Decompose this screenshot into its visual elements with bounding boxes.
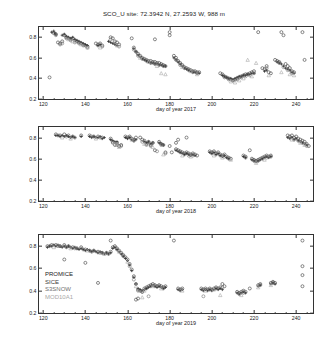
xtick-mark [127,198,128,201]
xtick-mark [296,27,297,30]
xtick-minor [306,200,307,201]
plot-area-2019: PROMICE SICE S3SNOW MOD10A1 0.20.40.60.8… [38,234,314,314]
xtick-mark [296,198,297,201]
xtick-minor [180,312,181,313]
ytick-mark [310,268,313,269]
legend: PROMICE SICE S3SNOW MOD10A1 [45,271,73,301]
xtick-minor [117,98,118,99]
ytick-label: 0.8 [29,34,36,40]
ytick-mark [310,78,313,79]
xtick-mark [85,310,86,313]
legend-item-s3snow: S3SNOW [45,286,73,294]
xtick-mark [169,198,170,201]
xtick-mark [296,127,297,130]
ytick-mark [39,58,42,59]
xtick-minor [159,312,160,313]
xtick-mark [254,310,255,313]
xtick-minor [96,200,97,201]
xtick-minor [275,98,276,99]
xtick-minor [75,200,76,201]
ytick-label: 0.4 [29,177,36,183]
plot-area-2017: 0.20.40.60.8120140160180200220240 [38,26,314,100]
xtick-mark [43,198,44,201]
xtick-mark [211,235,212,238]
albedo-figure: SCO_U site: 72.3942 N, 27.2593 W, 988 m … [0,0,328,340]
xtick-minor [306,312,307,313]
xtick-minor [64,312,65,313]
xtick-mark [211,96,212,99]
xaxis-label-2017: day of year 2017 [38,106,314,112]
xtick-minor [285,98,286,99]
xtick-mark [254,27,255,30]
xtick-mark [85,96,86,99]
xtick-minor [117,312,118,313]
ytick-label: 0.8 [29,135,36,141]
xtick-mark [296,96,297,99]
xtick-mark [43,96,44,99]
xtick-mark [127,310,128,313]
xtick-minor [148,200,149,201]
xtick-minor [117,200,118,201]
xtick-mark [254,198,255,201]
legend-item-mod10a1: MOD10A1 [45,294,73,302]
xtick-minor [53,200,54,201]
xtick-mark [254,127,255,130]
xtick-minor [106,98,107,99]
xtick-mark [127,27,128,30]
xtick-minor [275,312,276,313]
xtick-minor [222,98,223,99]
ytick-mark [310,290,313,291]
xtick-mark [169,96,170,99]
ytick-mark [39,137,42,138]
xtick-minor [233,312,234,313]
xtick-minor [64,200,65,201]
xtick-minor [201,98,202,99]
xtick-minor [243,200,244,201]
xtick-mark [127,96,128,99]
xtick-mark [43,235,44,238]
xtick-mark [85,127,86,130]
xtick-minor [285,200,286,201]
ytick-label: 0.4 [29,288,36,294]
xtick-minor [285,312,286,313]
xtick-minor [53,312,54,313]
xtick-minor [243,98,244,99]
xtick-minor [159,98,160,99]
ytick-mark [310,180,313,181]
xtick-mark [296,310,297,313]
xtick-minor [138,312,139,313]
scatter-layer-2017 [39,27,313,99]
legend-item-promice: PROMICE [45,271,73,279]
xtick-mark [211,310,212,313]
xtick-mark [211,27,212,30]
ytick-label: 0.2 [29,310,36,316]
ytick-label: 0.6 [29,156,36,162]
ytick-label: 0.2 [29,96,36,102]
ytick-mark [39,37,42,38]
scatter-layer-2018 [39,127,313,201]
xtick-minor [190,200,191,201]
ytick-label: 0.2 [29,198,36,204]
xtick-minor [64,98,65,99]
xtick-minor [180,98,181,99]
plot-area-2018: 0.20.40.60.8120140160180200220240 [38,126,314,202]
xtick-mark [43,27,44,30]
xtick-mark [85,27,86,30]
xtick-minor [148,98,149,99]
panel-2019: PROMICE SICE S3SNOW MOD10A1 0.20.40.60.8… [0,226,328,340]
xtick-minor [53,98,54,99]
ytick-mark [310,246,313,247]
xtick-minor [106,312,107,313]
xtick-mark [127,127,128,130]
xtick-minor [222,200,223,201]
ytick-label: 0.6 [29,55,36,61]
xtick-mark [43,310,44,313]
legend-item-sice: SICE [45,279,73,287]
ytick-label: 0.4 [29,75,36,81]
ytick-mark [310,99,313,100]
xtick-minor [96,98,97,99]
xtick-mark [127,235,128,238]
ytick-label: 0.8 [29,243,36,249]
xtick-minor [180,200,181,201]
xtick-mark [85,198,86,201]
